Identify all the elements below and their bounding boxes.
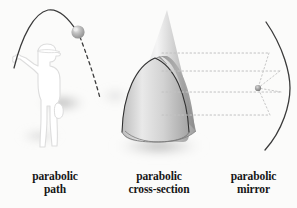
reflected-rays: [258, 53, 281, 115]
caption-line-2: mirror: [210, 183, 297, 196]
caption-line-2: cross-section: [103, 183, 215, 196]
ball-highlight: [74, 27, 78, 31]
glove-icon: [54, 103, 63, 118]
parabolic-path-artwork: [0, 0, 110, 168]
reflected-ray-3: [258, 88, 281, 92]
panel-parabolic-path: parabolic path: [0, 0, 110, 208]
parabolic-arc-dashed: [80, 37, 100, 98]
parabola-illustration: parabolic path: [0, 0, 297, 208]
focal-point: [255, 85, 261, 91]
caption-parabolic-cross-section: parabolic cross-section: [103, 170, 215, 195]
ball-icon: [71, 25, 84, 38]
parabolic-mirror-artwork: [210, 0, 297, 168]
panel-parabolic-cross-section: parabolic cross-section: [103, 0, 215, 208]
caption-parabolic-path: parabolic path: [0, 170, 110, 195]
caption-line-1: parabolic: [231, 170, 277, 182]
reflected-ray-2: [258, 71, 280, 88]
caption-parabolic-mirror: parabolic mirror: [210, 170, 297, 195]
parabolic-cross-section-artwork: [103, 0, 215, 168]
caption-line-2: path: [0, 183, 110, 196]
caption-line-1: parabolic: [136, 170, 182, 182]
hat-icon: [37, 50, 60, 53]
panel-parabolic-mirror: parabolic mirror: [210, 0, 297, 208]
parabolic-mirror-arc: [265, 22, 290, 150]
caption-line-1: parabolic: [32, 170, 78, 182]
